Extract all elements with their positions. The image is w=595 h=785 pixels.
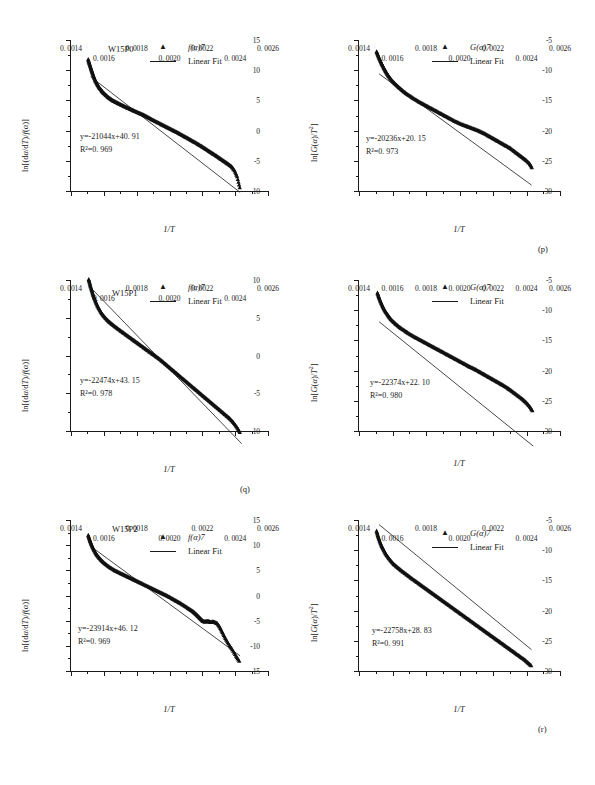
x-axis-minor-tick — [510, 191, 511, 194]
x-axis-tick — [71, 431, 72, 436]
yaxis-title-right: ln[G(α)/T2] — [308, 363, 319, 402]
yaxis-title-right: ln[G(α)/T2] — [308, 603, 319, 642]
yaxis-title-left: ln[(dα/dT)/f(α)] — [20, 359, 30, 412]
x-axis-tick — [268, 191, 269, 196]
x-axis-tick — [527, 671, 528, 676]
plot-area-q-left: 1050-5-100. 00140. 00160. 00180. 00200. … — [70, 280, 268, 432]
x-axis-tick — [137, 191, 138, 196]
xaxis-title: 1/T — [453, 704, 464, 714]
x-axis-minor-tick — [443, 191, 444, 194]
x-axis-tick — [359, 191, 360, 196]
x-axis-minor-tick — [153, 431, 154, 434]
x-axis-minor-tick — [120, 671, 121, 674]
x-axis-tick — [137, 431, 138, 436]
linear-fit-line — [91, 546, 240, 656]
x-axis-minor-tick — [153, 671, 154, 674]
x-axis-minor-tick — [186, 191, 187, 194]
yaxis-title-right: ln[G(α)/T2] — [308, 123, 319, 162]
x-axis-tick — [235, 431, 236, 436]
plot-area-q-right: -5-10-15-20-25-300. 00140. 00160. 00180.… — [358, 280, 560, 432]
panel-q-left: W15P1 ▲ f(α)7 Linear Fit ln[(dα/dT)/f(α)… — [8, 262, 298, 502]
figure-sheet: W15P0 ▲ f(α)7 Linear Fit ln[(dα/dT)/f(α)… — [0, 0, 595, 785]
x-axis-minor-tick — [409, 671, 410, 674]
data-layer — [359, 520, 560, 671]
x-axis-tick — [393, 431, 394, 436]
x-axis-minor-tick — [409, 191, 410, 194]
scatter-series — [87, 277, 242, 434]
panel-caption-q: (q) — [240, 484, 250, 494]
panel-p-right: ▲ G(α)7 Linear Fit ln[G(α)/T2] y=-20236x… — [300, 22, 590, 262]
x-axis-minor-tick — [252, 191, 253, 194]
x-axis-tick — [235, 671, 236, 676]
linear-fit-line — [379, 322, 533, 446]
x-axis-minor-tick — [376, 671, 377, 674]
x-axis-tick — [202, 431, 203, 436]
x-axis-minor-tick — [153, 191, 154, 194]
x-axis-tick — [359, 431, 360, 436]
x-axis-minor-tick — [543, 671, 544, 674]
x-axis-tick — [527, 431, 528, 436]
x-axis-tick — [393, 191, 394, 196]
plot-area-p-left: 151050-5-100. 00140. 00160. 00180. 00200… — [70, 40, 268, 192]
x-axis-minor-tick — [219, 431, 220, 434]
x-axis-tick — [560, 191, 561, 196]
yaxis-title-left: ln[(dα/dT)/f(α)] — [20, 599, 30, 652]
x-axis-tick — [71, 671, 72, 676]
x-axis-minor-tick — [543, 191, 544, 194]
x-axis-minor-tick — [219, 671, 220, 674]
plot-area-r-left: 151050-5-10-150. 00140. 00160. 00180. 00… — [70, 520, 268, 672]
scatter-series — [86, 57, 242, 189]
x-axis-tick — [170, 431, 171, 436]
x-axis-minor-tick — [476, 431, 477, 434]
x-axis-minor-tick — [87, 191, 88, 194]
scatter-series — [374, 529, 533, 668]
x-axis-tick — [71, 191, 72, 196]
scatter-series — [374, 49, 534, 169]
panel-caption-r: (r) — [538, 724, 547, 734]
x-axis-minor-tick — [510, 431, 511, 434]
x-axis-minor-tick — [376, 191, 377, 194]
x-axis-minor-tick — [252, 671, 253, 674]
data-layer — [71, 280, 268, 431]
x-axis-minor-tick — [476, 191, 477, 194]
panel-r-right: ▲ G(α)7 Linear Fit ln[G(α)/T2] y=-22758x… — [300, 502, 590, 742]
scatter-series — [375, 290, 534, 412]
data-layer — [359, 280, 560, 431]
data-layer — [359, 40, 560, 191]
x-axis-tick — [104, 191, 105, 196]
x-axis-minor-tick — [120, 191, 121, 194]
x-axis-tick — [202, 191, 203, 196]
xaxis-title: 1/T — [163, 224, 174, 234]
x-axis-minor-tick — [510, 671, 511, 674]
x-axis-minor-tick — [252, 431, 253, 434]
data-layer — [71, 520, 268, 671]
x-axis-tick — [560, 431, 561, 436]
scatter-series — [86, 533, 241, 663]
x-axis-tick — [560, 671, 561, 676]
x-axis-tick — [104, 671, 105, 676]
x-axis-tick — [426, 431, 427, 436]
x-axis-tick — [235, 191, 236, 196]
panel-p-left: W15P0 ▲ f(α)7 Linear Fit ln[(dα/dT)/f(α)… — [8, 22, 298, 262]
x-axis-minor-tick — [87, 671, 88, 674]
x-axis-tick — [460, 671, 461, 676]
x-axis-tick — [426, 191, 427, 196]
x-axis-minor-tick — [186, 431, 187, 434]
linear-fit-line — [91, 77, 240, 193]
x-axis-tick — [268, 431, 269, 436]
x-axis-tick — [460, 191, 461, 196]
x-axis-tick — [493, 671, 494, 676]
data-layer — [71, 40, 268, 191]
plot-area-r-right: -5-10-15-20-25-300. 00140. 00160. 00180.… — [358, 520, 560, 672]
panel-row-q: W15P1 ▲ f(α)7 Linear Fit ln[(dα/dT)/f(α)… — [0, 262, 595, 502]
xaxis-title: 1/T — [163, 704, 174, 714]
x-axis-tick — [104, 431, 105, 436]
plot-area-p-right: -5-10-15-20-25-300. 00140. 00160. 00180.… — [358, 40, 560, 192]
x-axis-minor-tick — [476, 671, 477, 674]
yaxis-title-left: ln[(dα/dT)/f(α)] — [20, 119, 30, 172]
x-axis-minor-tick — [376, 431, 377, 434]
x-axis-minor-tick — [409, 431, 410, 434]
linear-fit-line — [379, 525, 531, 650]
x-axis-tick — [393, 671, 394, 676]
x-axis-tick — [493, 431, 494, 436]
